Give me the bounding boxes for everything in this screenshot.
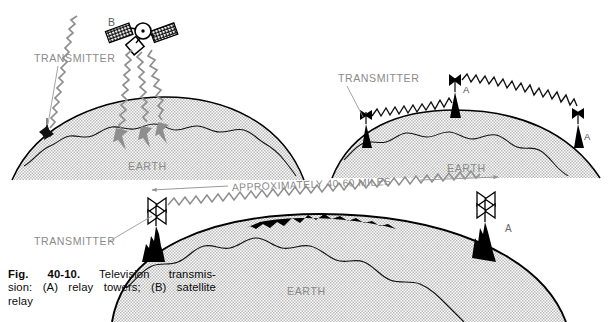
figure-number: Fig. 40-10. <box>8 268 80 280</box>
earth-label-satellite: EARTH <box>128 160 167 172</box>
relay-tower-right-top: A <box>572 108 591 148</box>
satellite-icon <box>105 23 177 55</box>
figure-caption: Fig. 40-10. Television transmis- sion: (… <box>8 268 216 308</box>
figure-caption-line-2: sion: (A) relay towers; (B) satellite <box>8 281 216 294</box>
earth-label-relay-top: EARTH <box>447 162 486 174</box>
relay-tower-bottom-right: A <box>472 192 512 262</box>
panel-relay-towers-top: A A TRANSMITTER EARTH <box>332 72 600 180</box>
transmitter-leader-line-relay-top <box>347 86 363 117</box>
earth-label-relay-bottom: EARTH <box>287 285 326 297</box>
relay-hop-2-top <box>462 74 577 106</box>
transmitter-label-relay-bottom: TRANSMITTER <box>34 235 115 247</box>
transmitter-label-relay-top: TRANSMITTER <box>338 72 419 84</box>
figure-caption-line-1: Television transmis- <box>99 268 216 280</box>
figure-root: B TRANSMITTER EARTH <box>0 0 614 322</box>
figure-caption-line-3: relay <box>8 295 216 308</box>
transmitter-label-satellite: TRANSMITTER <box>34 52 115 64</box>
relay-tower-label-a-center: A <box>463 84 470 95</box>
panel-satellite-relay: B TRANSMITTER EARTH <box>12 16 304 180</box>
transmitter-tower-bottom <box>142 198 166 262</box>
relay-tower-label-a-right: A <box>584 131 591 142</box>
relay-tower-label-a-bottom: A <box>505 223 512 234</box>
satellite-label-b: B <box>108 16 115 28</box>
uplink-beam <box>50 16 77 128</box>
transmitter-leader-line-relay-bottom <box>108 216 152 242</box>
